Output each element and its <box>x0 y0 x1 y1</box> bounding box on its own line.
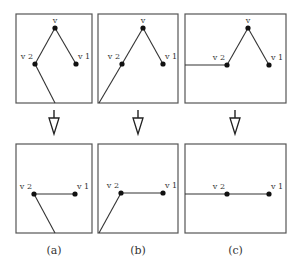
edge <box>35 64 55 103</box>
vertex-label-v: v <box>140 16 146 25</box>
vertex-label-v1: v 1 <box>77 52 90 61</box>
vertex-v1 <box>160 61 165 66</box>
panel-a-before: vv 2v 1 <box>16 14 92 103</box>
down-arrow-icon <box>133 110 143 134</box>
vertex-label-v1: v 1 <box>164 181 177 190</box>
vertex-v1 <box>73 61 78 66</box>
vertex-v <box>140 25 145 30</box>
edge <box>55 28 76 64</box>
caption-a: (a) <box>46 244 61 257</box>
vertex-label-v2: v 2 <box>19 182 32 191</box>
caption-b: (b) <box>130 244 146 257</box>
vertex-label-v1: v 1 <box>76 182 89 191</box>
vertex-label-v1: v 1 <box>270 182 283 191</box>
vertex-v <box>52 25 57 30</box>
edge <box>248 28 269 65</box>
down-arrow-icon <box>230 110 240 134</box>
edge <box>34 194 55 233</box>
edge <box>227 28 248 65</box>
vertex-v1 <box>266 191 271 196</box>
vertex-v2 <box>32 61 37 66</box>
panel-a-after: v 2v 1 <box>16 144 92 233</box>
vertex-v1 <box>266 62 271 67</box>
vertex-v2 <box>224 191 229 196</box>
panel-c-before: vv 2v 1 <box>185 14 286 103</box>
edge <box>122 28 143 64</box>
panel-b-after: v 2v 1 <box>98 144 178 233</box>
edge <box>143 28 163 64</box>
vertex-label-v: v <box>52 16 58 25</box>
edge <box>35 28 55 64</box>
edge <box>99 193 121 233</box>
vertex-v1 <box>160 190 165 195</box>
vertex-v2 <box>224 62 229 67</box>
vertex-v2 <box>119 61 124 66</box>
vertex-label-v1: v 1 <box>164 52 177 61</box>
vertex-v2 <box>31 191 36 196</box>
edge <box>99 64 122 103</box>
vertex-v1 <box>72 191 77 196</box>
panel-a: vv 2v 1v 2v 1(a) <box>16 14 92 257</box>
vertex-label-v1: v 1 <box>270 53 283 62</box>
vertex-label-v2: v 2 <box>212 182 225 191</box>
vertex-v <box>245 25 250 30</box>
vertex-label-v2: v 2 <box>212 53 225 62</box>
panel-c: vv 2v 1v 2v 1(c) <box>185 14 286 257</box>
diagram-canvas: vv 2v 1v 2v 1(a)vv 2v 1v 2v 1(b)vv 2v 1v… <box>0 0 300 266</box>
caption-c: (c) <box>228 244 243 257</box>
panel-b: vv 2v 1v 2v 1(b) <box>98 14 178 257</box>
panel-c-after: v 2v 1 <box>185 144 286 233</box>
down-arrow-icon <box>49 110 59 134</box>
vertex-label-v2: v 2 <box>20 52 33 61</box>
vertex-label-v2: v 2 <box>107 52 120 61</box>
vertex-v2 <box>118 190 123 195</box>
vertex-label-v2: v 2 <box>106 181 119 190</box>
vertex-label-v: v <box>245 16 251 25</box>
panel-b-before: vv 2v 1 <box>98 14 178 103</box>
